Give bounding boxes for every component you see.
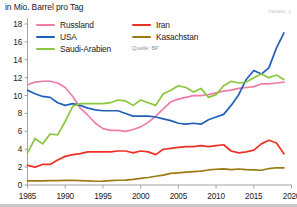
x-tick-label: 1985 [19, 192, 37, 201]
y-tick-label: 12 [13, 74, 22, 83]
x-axis-labels: 19851990199520002005201020152020 [19, 192, 297, 201]
x-tick-label: 2010 [207, 192, 225, 201]
y-tick-label: 16 [13, 38, 22, 47]
y-tick-label: 18 [13, 20, 22, 29]
plot-area: 181614121086420 198519901995200020052010… [0, 0, 297, 207]
series-line-kasachstan [28, 168, 284, 182]
x-tick-label: 2015 [245, 192, 263, 201]
x-tick-label: 2000 [132, 192, 150, 201]
series-line-usa [28, 33, 284, 124]
y-tick-label: 2 [18, 163, 23, 172]
x-tick-label: 2005 [170, 192, 188, 201]
y-tick-label: 4 [18, 145, 23, 154]
x-tick-label: 2020 [283, 192, 297, 201]
y-tick-label: 0 [18, 181, 23, 190]
series-line-saudi-arabien [28, 74, 284, 153]
plot-svg: 181614121086420 198519901995200020052010… [0, 0, 297, 207]
series-line-iran [28, 140, 284, 167]
oil-production-chart: in Mio. Barrel pro Tag 2300861_1 Russlan… [0, 0, 297, 207]
y-tick-label: 14 [13, 56, 22, 65]
bottom-rule [0, 204, 297, 207]
y-tick-label: 10 [13, 92, 22, 101]
x-tick-label: 1995 [94, 192, 112, 201]
y-axis-labels: 181614121086420 [13, 20, 22, 190]
series-line-russland [28, 81, 284, 131]
data-series-group [28, 33, 284, 181]
x-axis-ticks [28, 185, 292, 189]
y-tick-label: 6 [18, 127, 23, 136]
y-tick-label: 8 [18, 109, 23, 118]
x-tick-label: 1990 [57, 192, 75, 201]
